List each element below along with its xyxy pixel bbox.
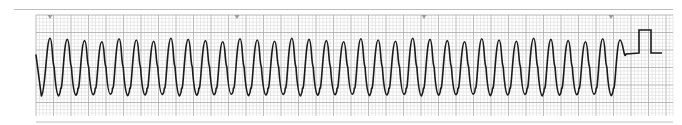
strip-top-border [14, 9, 673, 10]
ecg-strip [0, 0, 682, 125]
